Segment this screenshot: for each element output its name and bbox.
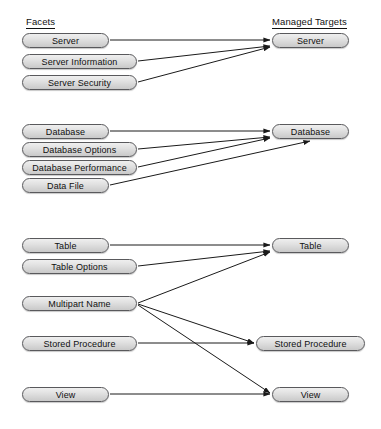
node-label: Table <box>299 240 321 250</box>
facet-node-f-stored-procedure[interactable]: Stored Procedure <box>22 336 137 351</box>
node-label: Server <box>52 35 79 45</box>
edge-f-database-performance-to-t-database <box>138 138 270 167</box>
target-node-t-database[interactable]: Database <box>272 124 349 139</box>
edge-f-multipart-name-to-t-stored-procedure <box>138 304 254 343</box>
facet-node-f-server-security[interactable]: Server Security <box>22 75 137 90</box>
node-label: Database Options <box>43 144 117 154</box>
edge-f-data-file-to-t-database <box>110 141 310 185</box>
node-label: Server Information <box>42 56 118 66</box>
node-label: Server <box>297 35 324 45</box>
facet-node-f-view[interactable]: View <box>22 387 109 402</box>
node-label: Table Options <box>51 261 107 271</box>
target-node-t-view[interactable]: View <box>272 387 349 402</box>
facet-node-f-table-options[interactable]: Table Options <box>22 259 137 274</box>
managed-targets-column-heading: Managed Targets <box>272 16 347 29</box>
node-label: Database <box>46 126 85 136</box>
edge-f-multipart-name-to-t-table <box>138 252 270 303</box>
node-label: View <box>301 389 321 399</box>
node-label: Stored Procedure <box>43 338 115 348</box>
edge-f-database-options-to-t-database <box>138 137 270 149</box>
node-label: Data File <box>47 180 84 190</box>
edge-f-server-security-to-t-server <box>138 47 270 82</box>
facet-node-f-data-file[interactable]: Data File <box>22 178 109 193</box>
node-label: Multipart Name <box>48 298 110 308</box>
target-node-t-server[interactable]: Server <box>272 33 349 48</box>
target-node-t-stored-procedure[interactable]: Stored Procedure <box>256 336 365 351</box>
facet-node-f-server-information[interactable]: Server Information <box>22 54 137 69</box>
node-label: Database Performance <box>32 162 127 172</box>
facet-node-f-multipart-name[interactable]: Multipart Name <box>22 296 137 311</box>
node-label: Stored Procedure <box>274 338 346 348</box>
facets-managed-targets-diagram: Facets Managed Targets ServerServer Info… <box>0 0 381 429</box>
facets-column-heading: Facets <box>26 16 55 29</box>
node-label: Server Security <box>48 77 111 87</box>
edge-f-server-information-to-t-server <box>138 46 270 61</box>
facet-node-f-server[interactable]: Server <box>22 33 109 48</box>
edge-f-multipart-name-to-t-view <box>138 305 270 393</box>
facet-node-f-database-options[interactable]: Database Options <box>22 142 137 157</box>
target-node-t-table[interactable]: Table <box>272 238 349 253</box>
node-label: View <box>56 389 76 399</box>
node-label: Database <box>291 126 330 136</box>
facet-node-f-table[interactable]: Table <box>22 238 109 253</box>
node-label: Table <box>54 240 76 250</box>
facet-node-f-database[interactable]: Database <box>22 124 109 139</box>
edge-f-table-options-to-t-table <box>138 251 270 266</box>
facet-node-f-database-performance[interactable]: Database Performance <box>22 160 137 175</box>
